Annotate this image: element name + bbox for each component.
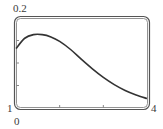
plot-frame: [15, 17, 150, 110]
chart-plot: [0, 0, 163, 129]
axis-ticks: [16, 41, 103, 109]
data-curve: [16, 34, 147, 98]
